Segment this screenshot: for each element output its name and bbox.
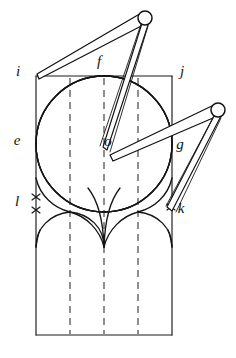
diagram-canvas: i j e o f g k l — [0, 0, 236, 358]
label-l: l — [15, 193, 19, 209]
label-e: e — [14, 132, 21, 148]
upper-compass-pivot-icon — [138, 11, 152, 25]
label-f: f — [97, 53, 103, 69]
label-o: o — [104, 133, 112, 149]
geometric-construction-figure: i j e o f g k l — [0, 0, 236, 358]
lower-compass-strut-2 — [176, 118, 221, 212]
label-i: i — [16, 63, 20, 79]
upper-compass — [37, 11, 152, 152]
dashed-construction-lines-group — [70, 78, 138, 334]
lower-compass-pivot-icon — [211, 103, 225, 117]
label-j: j — [178, 63, 184, 79]
arch-right-outer-limb — [138, 212, 172, 247]
label-g: g — [176, 136, 184, 152]
arch-center-right-limb — [104, 212, 138, 247]
label-k: k — [178, 200, 185, 216]
arch-left-outer-limb-2 — [70, 212, 104, 247]
arch-left-outer-limb — [36, 212, 70, 247]
arch-upper-left-limb — [36, 178, 70, 212]
upper-compass-strut-2 — [110, 26, 148, 152]
